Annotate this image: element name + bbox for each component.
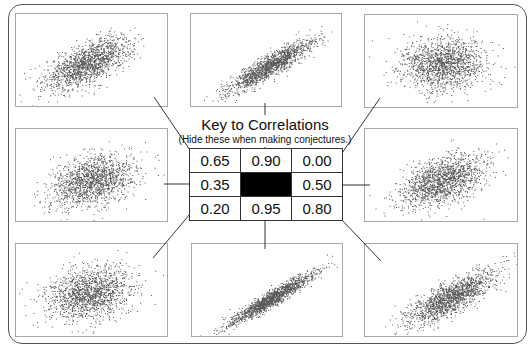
key-cell-bottom-left: 0.20 [190,197,241,221]
key-row: 0.35 0.50 [190,173,343,197]
key-cell-bottom-right: 0.80 [292,197,343,221]
key-cell-top-left: 0.65 [190,149,241,173]
key-cell-center-blank [241,173,292,197]
key-cell-top-center: 0.90 [241,149,292,173]
key-cell-middle-left: 0.35 [190,173,241,197]
bottom-right-connector [340,218,381,261]
key-title: Key to Correlations [180,117,350,133]
correlation-key-table: 0.65 0.90 0.00 0.35 0.50 0.20 0.95 0.80 [189,148,343,221]
key-row: 0.65 0.90 0.00 [190,149,343,173]
key-cell-middle-right: 0.50 [292,173,343,197]
key-cell-top-right: 0.00 [292,149,343,173]
key-subtitle: (Hide these when making conjectures.) [170,134,360,145]
bottom-left-connector [153,214,190,258]
key-cell-bottom-center: 0.95 [241,197,292,221]
key-row: 0.20 0.95 0.80 [190,197,343,221]
